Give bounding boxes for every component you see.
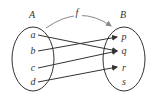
codomain-element-q: q [122,45,127,56]
mapping-arrow-c-to-q [38,51,117,68]
function-mapping-diagram: f A B a b c d p q r s [0,0,151,107]
domain-element-c: c [31,62,36,73]
function-arc [46,15,111,28]
codomain-element-r: r [122,62,126,73]
mapping-arrows [38,35,117,82]
codomain-label: B [120,9,126,20]
domain-element-b: b [31,45,36,56]
domain-element-a: a [31,29,36,40]
domain-label: A [28,9,36,20]
codomain-element-p: p [121,31,127,42]
domain-element-d: d [31,76,37,87]
codomain-element-s: s [122,76,126,87]
